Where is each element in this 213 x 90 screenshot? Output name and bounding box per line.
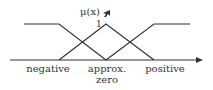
negative-label: negative	[26, 63, 70, 74]
peak-value-label: 1	[96, 19, 102, 29]
positive-membership-curve	[106, 24, 190, 60]
positive-label: positive	[145, 63, 185, 74]
zero-membership-curve	[59, 24, 154, 60]
zero-label-line1: approx.	[88, 63, 126, 74]
cursor-arrow-icon	[103, 10, 110, 17]
negative-membership-curve	[24, 24, 106, 60]
x-axis-arrow-icon	[196, 57, 203, 63]
zero-label-line2: zero	[96, 74, 118, 85]
membership-diagram: μ(x) 1 negative approx. zero positive	[0, 0, 213, 90]
y-axis-label: μ(x)	[80, 6, 100, 17]
